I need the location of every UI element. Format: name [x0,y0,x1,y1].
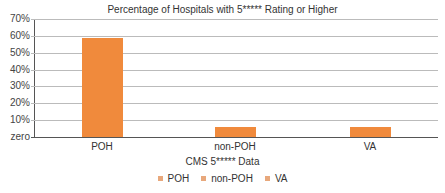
x-tick-label: POH [62,141,142,152]
y-tick-label: 60% [0,30,30,41]
legend-swatch-icon [158,176,163,181]
x-tick-label: non-POH [195,141,275,152]
legend-item-poh: POH [158,173,190,184]
legend-label: non-POH [211,173,253,184]
y-tick-label: zero [0,131,30,142]
gridline [31,19,438,20]
y-tick-label: 30% [0,80,30,91]
bar-poh [82,38,123,137]
y-tick-label: 20% [0,97,30,108]
gridline [31,137,438,138]
y-tick-label: 70% [0,13,30,24]
legend-swatch-icon [201,176,206,181]
x-axis-title: CMS 5***** Data [0,156,445,167]
legend-label: VA [275,173,288,184]
x-tick-label: VA [330,141,410,152]
legend-item-va: VA [265,173,288,184]
chart-title: Percentage of Hospitals with 5***** Rati… [0,4,445,15]
bar-va [350,127,391,137]
legend-swatch-icon [265,176,270,181]
y-tick-label: 40% [0,64,30,75]
legend-item-non-poh: non-POH [201,173,253,184]
y-tick-label: 10% [0,114,30,125]
legend-label: POH [168,173,190,184]
bar-non-poh [215,127,256,137]
y-tick-label: 50% [0,47,30,58]
plot-area [34,19,438,137]
gridline [31,36,438,37]
legend: POH non-POH VA [0,173,445,184]
